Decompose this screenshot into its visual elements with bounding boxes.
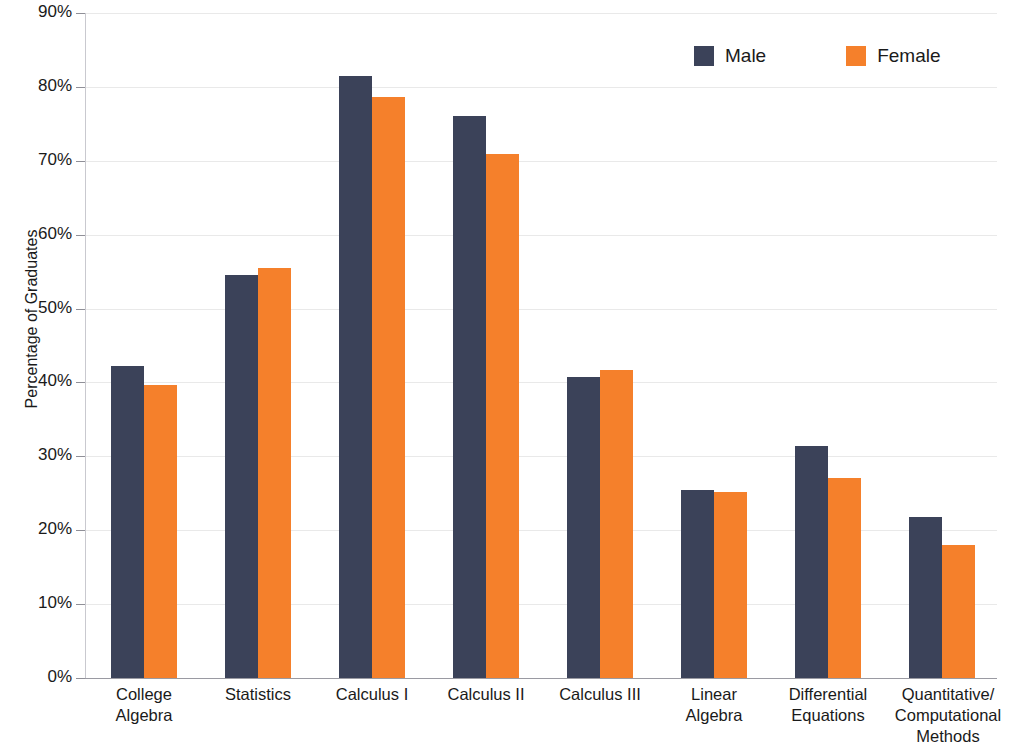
x-axis-label-line: Quantitative/ [878,684,1010,705]
x-axis-label-line: Algebra [650,705,778,726]
y-axis-tick-mark [76,456,85,457]
y-axis-tick-mark [76,13,85,14]
x-axis-label-line: College [80,684,208,705]
y-axis-tick-label: 10% [0,593,72,613]
x-axis-label: Statistics [194,684,322,705]
bar-male [681,490,714,678]
bar-male [909,517,942,678]
x-axis-label-line: Linear [650,684,778,705]
bar-male [339,76,372,678]
bar-male [567,377,600,678]
bar-group [795,13,861,678]
x-axis-label-line: Computational [878,705,1010,726]
x-axis-label: LinearAlgebra [650,684,778,726]
bar-female [372,97,405,678]
bar-female [600,370,633,678]
legend-swatch-icon [846,46,866,66]
x-axis-label-line: Methods [878,726,1010,745]
y-axis-tick-label: 80% [0,76,72,96]
legend: MaleFemale [694,45,941,67]
x-axis-label: Calculus II [422,684,550,705]
y-axis-tick-label: 90% [0,2,72,22]
y-axis-tick-mark [76,530,85,531]
x-axis-label: Quantitative/ComputationalMethods [878,684,1010,745]
legend-label: Female [877,45,940,67]
bar-female [942,545,975,678]
bar-group [567,13,633,678]
bar-male [453,116,486,678]
bar-female [144,385,177,678]
bar-group [225,13,291,678]
x-axis-label-line: Calculus I [308,684,436,705]
x-axis-label-line: Statistics [194,684,322,705]
y-axis-tick-label: 0% [0,667,72,687]
y-axis-tick-label: 20% [0,519,72,539]
y-axis-tick-mark [76,604,85,605]
bar-chart: Percentage of Graduates 0%10%20%30%40%50… [0,0,1010,745]
y-axis-tick-mark [76,382,85,383]
plot-area [85,13,997,678]
x-axis-label: Calculus III [536,684,664,705]
y-axis-tick-label: 30% [0,445,72,465]
bar-male [225,275,258,678]
bar-group [111,13,177,678]
x-axis-label-line: Calculus III [536,684,664,705]
bar-female [714,492,747,678]
legend-item-female[interactable]: Female [846,45,940,67]
y-axis-tick-mark [76,87,85,88]
y-axis-tick-label: 50% [0,298,72,318]
axis-baseline [85,678,997,679]
bar-group [453,13,519,678]
bar-female [486,154,519,678]
x-axis-label: DifferentialEquations [764,684,892,726]
legend-label: Male [725,45,766,67]
y-axis-line [85,13,86,678]
bar-male [111,366,144,678]
bar-group [339,13,405,678]
bar-male [795,446,828,678]
y-axis-tick-label: 40% [0,371,72,391]
x-axis-label-line: Algebra [80,705,208,726]
legend-item-male[interactable]: Male [694,45,766,67]
y-axis-tick-label: 70% [0,150,72,170]
y-axis-tick-label: 60% [0,224,72,244]
bar-group [909,13,975,678]
bar-group [681,13,747,678]
x-axis-label-line: Differential [764,684,892,705]
x-axis-label-line: Calculus II [422,684,550,705]
x-axis-label: Calculus I [308,684,436,705]
y-axis-tick-mark [76,309,85,310]
x-axis-label: CollegeAlgebra [80,684,208,726]
y-axis-tick-mark [76,235,85,236]
bar-female [258,268,291,678]
y-axis-tick-mark [76,678,85,679]
bar-female [828,478,861,678]
x-axis-label-line: Equations [764,705,892,726]
y-axis-tick-mark [76,161,85,162]
legend-swatch-icon [694,46,714,66]
